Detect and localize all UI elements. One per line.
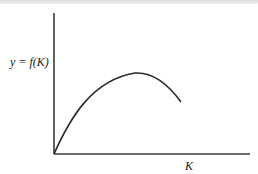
y-axis-label: y = f(K): [9, 55, 49, 69]
production-function-chart: y = f(K) K: [0, 0, 258, 174]
curve-f-of-k: [54, 73, 181, 154]
x-axis-label: K: [184, 159, 194, 173]
